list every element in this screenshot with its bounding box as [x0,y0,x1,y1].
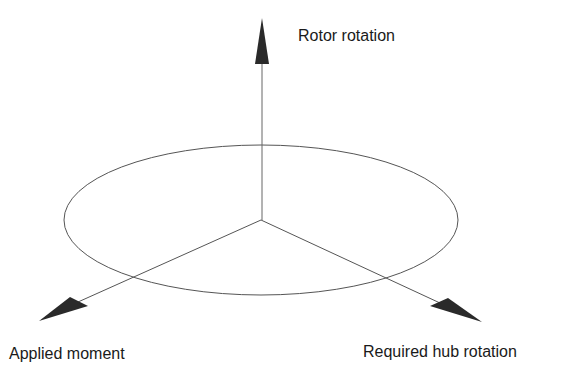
required-hub-rotation-label: Required hub rotation [363,343,517,361]
axes-diagram [0,0,578,377]
applied-moment-label: Applied moment [9,345,125,363]
diagram-canvas: Rotor rotation Applied moment Required h… [0,0,578,377]
right-axis-line [261,220,440,303]
left-axis-line [78,220,261,302]
rotor-rotation-arrowhead-icon [255,18,269,64]
rotor-rotation-label: Rotor rotation [298,27,395,45]
